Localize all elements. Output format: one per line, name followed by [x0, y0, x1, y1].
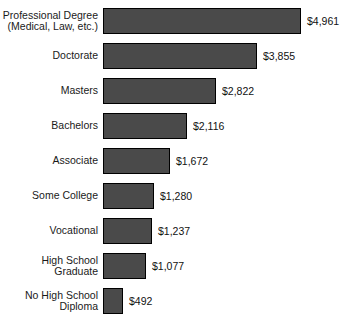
bar-area: $2,822	[103, 78, 354, 104]
bar-row: High School Graduate$1,077	[0, 253, 354, 279]
bar-value-label: $1,672	[176, 155, 208, 167]
bar-row: Vocational$1,237	[0, 218, 354, 244]
bar-area: $1,280	[103, 183, 354, 209]
bar	[103, 148, 170, 174]
bar-area: $1,077	[103, 253, 354, 279]
bar	[103, 253, 146, 279]
bar-chart: Professional Degree (Medical, Law, etc.)…	[0, 0, 354, 330]
category-label: High School Graduate	[0, 255, 103, 278]
category-label: Vocational	[0, 225, 103, 237]
bar-value-label: $492	[129, 295, 152, 307]
category-label: Associate	[0, 155, 103, 167]
bar-value-label: $2,116	[193, 120, 224, 132]
bar-area: $1,237	[103, 218, 354, 244]
bar-value-label: $1,237	[158, 225, 190, 237]
bar-area: $2,116	[103, 113, 354, 139]
bar-value-label: $1,077	[152, 260, 184, 272]
category-label: Bachelors	[0, 120, 103, 132]
bar-value-label: $1,280	[160, 190, 192, 202]
bar-row: Masters$2,822	[0, 78, 354, 104]
category-label: Some College	[0, 190, 103, 202]
category-label: No High School Diploma	[0, 290, 103, 313]
category-label: Doctorate	[0, 50, 103, 62]
bar-value-label: $4,961	[307, 15, 339, 27]
bar	[103, 183, 154, 209]
bar-row: Bachelors$2,116	[0, 113, 354, 139]
bar	[103, 288, 123, 314]
bar-value-label: $2,822	[222, 85, 254, 97]
bar-row: No High School Diploma$492	[0, 288, 354, 314]
bar-area: $492	[103, 288, 354, 314]
bar-area: $3,855	[103, 43, 354, 69]
bar-row: Some College$1,280	[0, 183, 354, 209]
bar-rows: Professional Degree (Medical, Law, etc.)…	[0, 8, 354, 323]
bar-row: Professional Degree (Medical, Law, etc.)…	[0, 8, 354, 34]
bar-area: $1,672	[103, 148, 354, 174]
category-label: Masters	[0, 85, 103, 97]
category-label: Professional Degree (Medical, Law, etc.)	[0, 10, 103, 33]
bar	[103, 8, 301, 34]
bar-row: Doctorate$3,855	[0, 43, 354, 69]
bar	[103, 218, 152, 244]
bar-row: Associate$1,672	[0, 148, 354, 174]
bar-area: $4,961	[103, 8, 354, 34]
bar-value-label: $3,855	[263, 50, 295, 62]
bar	[103, 78, 216, 104]
bar	[103, 43, 257, 69]
bar	[103, 113, 187, 139]
